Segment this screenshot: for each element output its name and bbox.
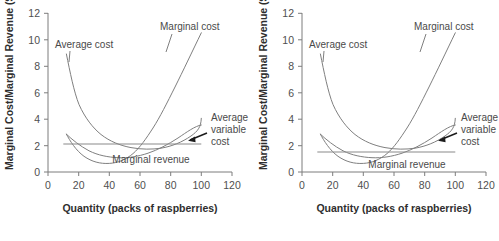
y-tick-6: 6 bbox=[288, 87, 294, 99]
x-tick-60: 60 bbox=[388, 179, 400, 191]
label-marginal-cost: Marginal cost bbox=[160, 21, 220, 32]
curve-average-cost bbox=[66, 54, 201, 149]
label-avc-line2: variable bbox=[461, 124, 496, 135]
x-tick-0: 0 bbox=[45, 179, 51, 191]
y-tick-2: 2 bbox=[34, 140, 40, 152]
x-tick-20: 20 bbox=[73, 179, 85, 191]
label-marginal-revenue: Marginal revenue bbox=[112, 154, 190, 165]
leader-average-cost bbox=[323, 51, 324, 62]
x-tick-120: 120 bbox=[223, 179, 241, 191]
x-tick-120: 120 bbox=[477, 179, 495, 191]
x-tick-20: 20 bbox=[327, 179, 339, 191]
y-tick-12: 12 bbox=[282, 7, 294, 19]
label-avc-line3: cost bbox=[211, 136, 230, 147]
x-axis-tick-labels: 0 20 40 60 80 100 120 bbox=[45, 179, 241, 191]
y-tick-8: 8 bbox=[34, 60, 40, 72]
x-axis-ticks bbox=[302, 172, 486, 176]
x-tick-40: 40 bbox=[357, 179, 369, 191]
y-tick-0: 0 bbox=[288, 166, 294, 178]
y-tick-12: 12 bbox=[28, 7, 40, 19]
label-marginal-revenue: Marginal revenue bbox=[368, 159, 446, 170]
x-tick-80: 80 bbox=[419, 179, 431, 191]
chart-panel-left: Marginal Cost/Marginal Revenue ($) 12 bbox=[0, 0, 249, 241]
x-tick-100: 100 bbox=[447, 179, 465, 191]
y-axis-ticks bbox=[44, 13, 48, 172]
x-axis-tick-labels: 0 20 40 60 80 100 120 bbox=[299, 179, 495, 191]
y-axis-tick-labels: 12 10 8 6 4 2 0 bbox=[28, 7, 40, 178]
label-average-cost: Average cost bbox=[55, 39, 113, 50]
x-tick-0: 0 bbox=[299, 179, 305, 191]
chart-svg-right: Marginal Cost/Marginal Revenue ($) 12 10… bbox=[249, 0, 499, 241]
x-tick-40: 40 bbox=[103, 179, 115, 191]
leader-average-cost bbox=[69, 51, 70, 62]
leader-marginal-cost bbox=[420, 34, 426, 52]
label-average-variable-cost: Average variable cost bbox=[211, 112, 249, 147]
x-axis-title: Quantity (packs of raspberries) bbox=[316, 202, 471, 214]
label-average-variable-cost: Average variable cost bbox=[461, 112, 499, 147]
y-axis-title: Marginal Cost/Marginal Revenue ($) bbox=[257, 0, 269, 170]
y-tick-4: 4 bbox=[34, 113, 40, 125]
label-avc-line2: variable bbox=[211, 124, 246, 135]
label-avc-line1: Average bbox=[461, 112, 499, 123]
economics-cost-curves-figure: Marginal Cost/Marginal Revenue ($) 12 bbox=[0, 0, 499, 241]
chart-panel-right: Marginal Cost/Marginal Revenue ($) 12 10… bbox=[249, 0, 498, 241]
leader-marginal-cost bbox=[166, 34, 172, 52]
label-marginal-cost: Marginal cost bbox=[414, 21, 474, 32]
y-tick-10: 10 bbox=[282, 34, 294, 46]
label-average-cost: Average cost bbox=[309, 39, 367, 50]
y-tick-2: 2 bbox=[288, 140, 294, 152]
y-tick-6: 6 bbox=[34, 87, 40, 99]
curve-marginal-cost bbox=[320, 33, 455, 164]
chart-svg-left: Marginal Cost/Marginal Revenue ($) 12 bbox=[0, 0, 249, 241]
y-axis-ticks bbox=[298, 13, 302, 172]
curve-average-cost bbox=[320, 54, 455, 149]
y-tick-10: 10 bbox=[28, 34, 40, 46]
y-tick-4: 4 bbox=[288, 113, 294, 125]
label-avc-line1: Average bbox=[211, 112, 249, 123]
y-tick-8: 8 bbox=[288, 60, 294, 72]
y-axis-tick-labels: 12 10 8 6 4 2 0 bbox=[282, 7, 294, 178]
x-axis-ticks bbox=[48, 172, 232, 176]
label-avc-line3: cost bbox=[461, 136, 480, 147]
x-tick-60: 60 bbox=[134, 179, 146, 191]
y-tick-0: 0 bbox=[34, 166, 40, 178]
x-axis-title: Quantity (packs of raspberries) bbox=[62, 202, 217, 214]
x-tick-100: 100 bbox=[193, 179, 211, 191]
x-tick-80: 80 bbox=[165, 179, 177, 191]
y-axis-title: Marginal Cost/Marginal Revenue ($) bbox=[3, 0, 15, 170]
